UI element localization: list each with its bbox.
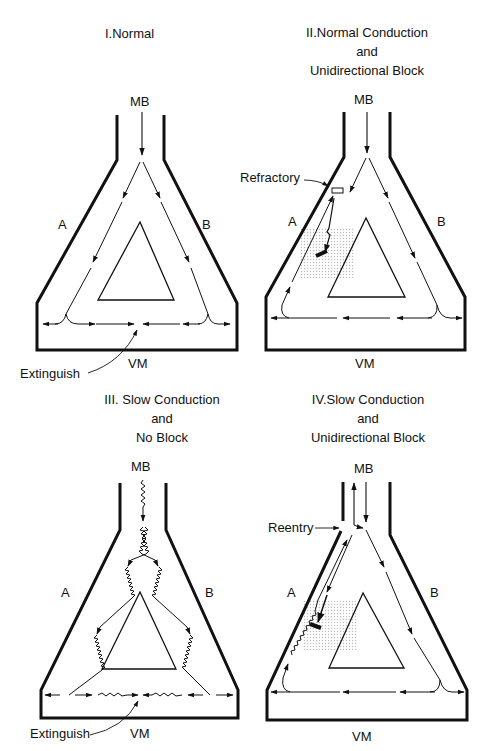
panel-4-label-vm: VM [352,729,372,744]
panel-3-label-a: A [61,585,70,600]
panel-1-title: I.Normal [105,24,154,43]
panel-2-label-vm: VM [355,356,375,371]
flask-outline [41,483,238,718]
panel-2-normal-conduction-unidirectional-block [266,112,465,350]
refractory-pointer [304,180,328,186]
panel-4-title: IV.Slow Conduction and Unidirectional Bl… [298,390,438,447]
flask-outline [37,115,237,350]
panel-4-label-mb: MB [354,461,374,476]
panel-1-normal [37,112,237,373]
inner-triangle [102,592,176,669]
panel-3-slow-conduction-no-block [41,480,238,735]
inner-triangle [98,222,174,300]
panel-3-title: III. Slow Conduction and No Block [97,390,227,447]
panel-3-annotation-extinguish: Extinguish [30,726,90,741]
panel-2-title: II.Normal Conduction and Unidirectional … [292,23,442,80]
shaded-region [300,228,355,278]
panel-4-label-a: A [287,585,296,600]
panel-2-annotation-refractory: Refractory [240,170,300,185]
refractory-box [332,188,343,193]
panel-1-label-a: A [58,217,67,232]
panel-3-label-b: B [205,585,214,600]
panel-1-label-b: B [202,217,211,232]
panel-1-label-mb: MB [130,94,150,109]
panel-4-annotation-reentry: Reentry [268,520,314,535]
panel-4-slow-conduction-unidirectional-block [267,482,467,720]
panel-4-label-b: B [430,585,439,600]
panel-3-label-vm: VM [130,726,150,741]
panel-2-label-a: A [288,214,297,229]
panel-2-label-b: B [437,214,446,229]
panel-2-label-mb: MB [354,92,374,107]
panel-1-annotation-extinguish: Extinguish [20,366,80,381]
panel-3-label-mb: MB [131,459,151,474]
panel-1-label-vm: VM [128,356,148,371]
